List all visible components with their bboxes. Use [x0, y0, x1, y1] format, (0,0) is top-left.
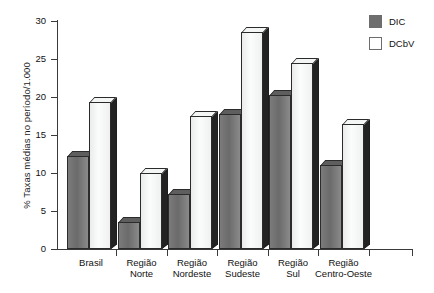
- y-tick-label: 30: [0, 15, 46, 26]
- plot-area: [57, 21, 412, 249]
- bar-dic-2: [168, 194, 190, 249]
- bar-side: [162, 168, 168, 249]
- bar-face: [118, 222, 140, 249]
- bar-dcbv-4: [291, 63, 313, 249]
- bar-side: [263, 28, 269, 249]
- x-tick-mark: [268, 250, 269, 256]
- x-tick-mark: [167, 250, 168, 256]
- bar-face: [140, 173, 162, 249]
- legend-swatch-dcbv-icon: [369, 37, 382, 50]
- bar-face: [67, 156, 89, 249]
- x-tick-mark: [116, 250, 117, 256]
- legend-swatch-dic-icon: [369, 15, 382, 28]
- bar-face: [291, 63, 313, 249]
- y-tick-label: 10: [0, 167, 46, 178]
- bar-face: [89, 102, 111, 249]
- bar-dcbv-5: [342, 124, 364, 249]
- legend-item-dic: DIC: [369, 10, 414, 32]
- x-tick-mark-end: [412, 250, 413, 256]
- y-tick-label: 20: [0, 91, 46, 102]
- bar-side: [111, 98, 117, 249]
- legend-label-dcbv: DCbV: [389, 38, 414, 49]
- x-tick-mark: [318, 250, 319, 256]
- y-tick-label: 0: [0, 243, 46, 254]
- legend-label-dic: DIC: [389, 16, 405, 27]
- x-tick-mark: [369, 250, 370, 256]
- bar-face: [320, 165, 342, 249]
- chart-legend: DIC DCbV: [369, 10, 414, 54]
- bar-face: [342, 124, 364, 249]
- y-tick-label: 25: [0, 53, 46, 64]
- bar-dic-0: [67, 156, 89, 249]
- bar-dic-1: [118, 222, 140, 249]
- y-tick-label: 15: [0, 129, 46, 140]
- x-axis-label-5: Região Centro-Oeste: [299, 258, 389, 279]
- y-tick-label: 5: [0, 205, 46, 216]
- bar-dic-3: [219, 114, 241, 249]
- bar-dcbv-0: [89, 102, 111, 249]
- bar-dcbv-2: [190, 116, 212, 249]
- bar-dic-5: [320, 165, 342, 249]
- bar-face: [241, 32, 263, 249]
- bar-side: [364, 119, 370, 249]
- bar-dic-4: [269, 95, 291, 249]
- bar-side: [313, 58, 319, 249]
- bar-face: [219, 114, 241, 249]
- bar-face: [190, 116, 212, 249]
- bar-chart: % Taxas médias no período/1.000 05101520…: [0, 0, 434, 293]
- bar-face: [168, 194, 190, 249]
- bar-dcbv-1: [140, 173, 162, 249]
- bar-dcbv-3: [241, 32, 263, 249]
- legend-item-dcbv: DCbV: [369, 32, 414, 54]
- y-tick-mark: [51, 249, 57, 250]
- bar-face: [269, 95, 291, 249]
- bar-side: [212, 111, 218, 249]
- x-tick-mark: [217, 250, 218, 256]
